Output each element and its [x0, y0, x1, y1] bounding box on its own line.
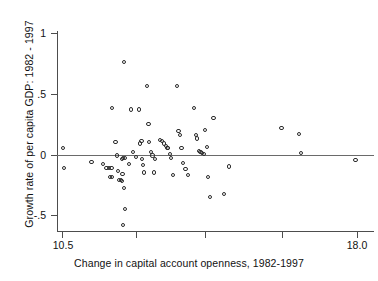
scatter-point — [121, 156, 125, 160]
scatter-point — [227, 164, 231, 168]
scatter-point — [142, 170, 146, 174]
y-axis-tick — [51, 155, 57, 156]
scatter-point — [101, 162, 105, 166]
scatter-point — [152, 170, 156, 174]
scatter-point — [117, 178, 121, 182]
x-axis-tick-label: 18.0 — [327, 240, 378, 251]
scatter-point — [146, 122, 150, 126]
scatter-point — [149, 150, 153, 154]
scatter-point — [162, 141, 166, 145]
y-axis-tick-label: .5 — [6, 89, 46, 100]
scatter-point — [121, 223, 125, 227]
scatter-point — [176, 129, 180, 133]
x-axis-tick-label: 10.5 — [33, 240, 93, 251]
scatter-point — [206, 175, 210, 179]
x-axis-tick — [282, 232, 283, 238]
scatter-point — [169, 156, 173, 160]
scatter-point — [181, 161, 185, 165]
scatter-point — [62, 166, 66, 170]
y-axis-tick-label: 0 — [6, 150, 46, 161]
scatter-point — [160, 139, 164, 143]
scatter-point — [122, 60, 126, 64]
scatter-point — [138, 141, 142, 145]
scatter-point — [147, 140, 151, 144]
x-axis-tick — [136, 232, 137, 238]
scatter-point — [192, 106, 196, 110]
scatter-point — [141, 163, 145, 167]
scatter-point — [120, 172, 124, 176]
x-axis-title: Change in capital account openness, 1982… — [0, 257, 378, 269]
y-axis-tick — [51, 94, 57, 95]
scatter-point — [205, 145, 209, 149]
scatter-point — [203, 128, 207, 132]
scatter-point — [109, 166, 113, 170]
scatter-point — [107, 166, 111, 170]
scatter-point — [297, 132, 301, 136]
scatter-plot-figure: Growth rate of per capita GDP: 1982 - 19… — [0, 0, 378, 281]
scatter-point — [113, 140, 117, 144]
scatter-point — [61, 146, 65, 150]
y-axis-title: Growth rate of per capita GDP: 1982 - 19… — [23, 14, 35, 234]
scatter-point — [197, 149, 201, 153]
y-axis-tick-label: -.5 — [6, 210, 46, 221]
scatter-point — [127, 162, 131, 166]
x-axis-line — [57, 231, 374, 232]
x-axis-tick — [357, 232, 358, 238]
scatter-point — [186, 173, 190, 177]
scatter-point — [129, 107, 133, 111]
scatter-point — [119, 178, 123, 182]
scatter-point — [104, 166, 108, 170]
scatter-point — [353, 158, 357, 162]
scatter-point — [137, 107, 141, 111]
scatter-point — [153, 157, 157, 161]
scatter-point — [183, 167, 187, 171]
scatter-point — [279, 126, 283, 130]
scatter-point — [211, 116, 215, 120]
scatter-point — [195, 136, 199, 140]
scatter-point — [89, 160, 93, 164]
scatter-point — [166, 146, 170, 150]
y-axis-tick — [51, 33, 57, 34]
scatter-point — [108, 175, 112, 179]
y-axis-line — [57, 31, 58, 231]
x-axis-tick — [62, 232, 63, 238]
scatter-point — [131, 150, 135, 154]
scatter-point — [140, 157, 144, 161]
scatter-point — [175, 84, 179, 88]
scatter-point — [158, 138, 162, 142]
scatter-point — [123, 156, 127, 160]
scatter-point — [122, 186, 126, 190]
scatter-point — [120, 179, 124, 183]
y-axis-tick-label: 1 — [6, 28, 46, 39]
scatter-point — [222, 192, 226, 196]
y-axis-tick — [51, 215, 57, 216]
scatter-point — [178, 133, 182, 137]
x-axis-tick — [205, 232, 206, 238]
scatter-point — [116, 169, 120, 173]
scatter-point — [208, 195, 212, 199]
scatter-point — [164, 144, 168, 148]
scatter-point — [179, 146, 183, 150]
scatter-point — [110, 106, 114, 110]
scatter-point — [145, 84, 149, 88]
scatter-point — [165, 146, 169, 150]
scatter-point — [110, 175, 114, 179]
scatter-point — [123, 207, 127, 211]
scatter-point — [198, 150, 202, 154]
scatter-point — [139, 139, 143, 143]
zero-reference-line — [57, 155, 374, 156]
scatter-point — [120, 157, 124, 161]
scatter-point — [171, 173, 175, 177]
scatter-point — [194, 133, 198, 137]
